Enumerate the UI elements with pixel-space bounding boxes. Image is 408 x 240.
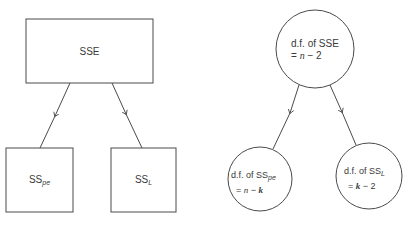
var-k: k	[259, 185, 264, 195]
equals-sign: =	[291, 50, 300, 61]
df-sse-line1: d.f. of SSE	[291, 38, 339, 50]
pe-subscript: pe	[268, 174, 276, 181]
minus-sign: −	[305, 50, 316, 61]
df-ssl-line2: = k − 2	[344, 180, 385, 192]
ss-text: SS	[29, 174, 42, 185]
df-sspe-line1: d.f. of SSpe	[231, 169, 276, 184]
equals-sign: =	[348, 181, 356, 191]
df-of-ss-text: d.f. of SS	[231, 170, 268, 180]
df-ssl-line1: d.f. of SSL	[344, 165, 385, 180]
minus-sign: −	[248, 185, 258, 195]
df-sse-line2: = n − 2	[291, 50, 339, 62]
ss-pe-label: SSpe	[6, 174, 73, 189]
pe-subscript: pe	[42, 179, 50, 186]
sse-text: SSE	[79, 46, 99, 57]
equals-sign: =	[236, 185, 244, 195]
num-2: 2	[316, 50, 322, 61]
minus-sign: −	[360, 181, 370, 191]
df-sse-label: d.f. of SSE = n − 2	[291, 38, 339, 62]
l-subscript: L	[381, 170, 385, 177]
sse-label: SSE	[26, 46, 153, 58]
num-2: 2	[371, 181, 376, 191]
df-sspe-label: d.f. of SSpe = n − k	[231, 169, 276, 196]
df-ssl-label: d.f. of SSL = k − 2	[344, 165, 385, 192]
df-of-ss-text: d.f. of SS	[344, 166, 381, 176]
arrow-sse-to-ssl	[112, 83, 142, 148]
ss-text: SS	[135, 174, 148, 185]
arrow-sse-to-sspe	[40, 83, 70, 148]
df-sspe-line2: = n − k	[231, 184, 276, 196]
arrow-dfsse-to-dfssl	[330, 85, 356, 145]
l-subscript: L	[148, 179, 152, 186]
ss-l-label: SSL	[111, 174, 176, 189]
arrow-dfsse-to-dfsspe	[273, 85, 299, 149]
